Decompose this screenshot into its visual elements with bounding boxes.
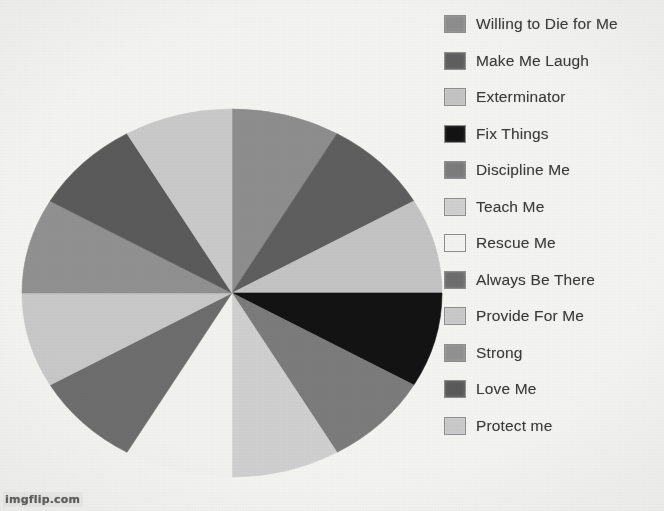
legend-item-label: Exterminator — [476, 88, 566, 106]
legend-swatch-icon — [444, 417, 466, 435]
legend-item[interactable]: Fix Things — [444, 116, 662, 153]
legend-item[interactable]: Rescue Me — [444, 225, 662, 262]
legend-item[interactable]: Always Be There — [444, 262, 662, 299]
legend-item-label: Protect me — [476, 417, 552, 435]
legend-item[interactable]: Teach Me — [444, 189, 662, 226]
legend-item-label: Love Me — [476, 380, 537, 398]
chart-canvas: Willing to Die for MeMake Me LaughExterm… — [0, 0, 664, 511]
legend-swatch-icon — [444, 15, 466, 33]
legend-item[interactable]: Exterminator — [444, 79, 662, 116]
legend-item-label: Fix Things — [476, 125, 549, 143]
legend-item-label: Make Me Laugh — [476, 52, 589, 70]
chart-legend: Willing to Die for MeMake Me LaughExterm… — [444, 6, 662, 444]
legend-swatch-icon — [444, 271, 466, 289]
legend-item[interactable]: Provide For Me — [444, 298, 662, 335]
legend-item[interactable]: Love Me — [444, 371, 662, 408]
legend-item[interactable]: Willing to Die for Me — [444, 6, 662, 43]
pie-chart — [0, 0, 452, 511]
legend-swatch-icon — [444, 307, 466, 325]
legend-swatch-icon — [444, 52, 466, 70]
legend-item-label: Rescue Me — [476, 234, 556, 252]
legend-swatch-icon — [444, 234, 466, 252]
pie-chart-svg — [0, 0, 452, 511]
legend-item-label: Willing to Die for Me — [476, 15, 618, 33]
pie-slice-group — [22, 109, 442, 477]
legend-item-label: Strong — [476, 344, 523, 362]
legend-swatch-icon — [444, 198, 466, 216]
legend-swatch-icon — [444, 344, 466, 362]
legend-item-label: Teach Me — [476, 198, 544, 216]
legend-item[interactable]: Protect me — [444, 408, 662, 445]
legend-item-label: Discipline Me — [476, 161, 570, 179]
legend-swatch-icon — [444, 380, 466, 398]
legend-swatch-icon — [444, 125, 466, 143]
imgflip-watermark: imgflip.com — [3, 492, 83, 507]
legend-item-label: Provide For Me — [476, 307, 584, 325]
legend-item[interactable]: Strong — [444, 335, 662, 372]
legend-item[interactable]: Discipline Me — [444, 152, 662, 189]
legend-swatch-icon — [444, 161, 466, 179]
legend-swatch-icon — [444, 88, 466, 106]
legend-item-label: Always Be There — [476, 271, 595, 289]
legend-item[interactable]: Make Me Laugh — [444, 43, 662, 80]
